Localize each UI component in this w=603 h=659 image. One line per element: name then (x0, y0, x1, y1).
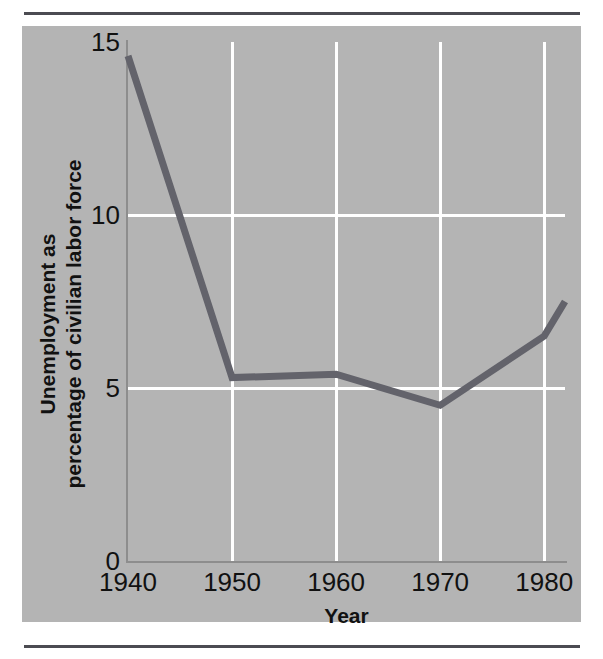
series-line (128, 56, 565, 405)
x-tick-label: 1980 (515, 569, 573, 595)
x-tick-label: 1960 (307, 569, 365, 595)
line-series (128, 42, 565, 561)
y-tick-label: 5 (106, 375, 120, 401)
bottom-rule (24, 645, 580, 648)
y-tick-label: 15 (91, 29, 120, 55)
x-tick-label: 1950 (203, 569, 261, 595)
chart-page: Unemployment as percentage of civilian l… (0, 0, 603, 659)
x-axis-title: Year (128, 604, 565, 628)
x-tick-label: 1970 (411, 569, 469, 595)
top-rule (24, 12, 580, 15)
plot-area: 051015 19401950196019701980 (128, 42, 565, 561)
x-tick-label: 1940 (99, 569, 157, 595)
y-axis-title-line2: percentage of civilian labor force (61, 109, 87, 539)
y-axis-title: Unemployment as percentage of civilian l… (35, 109, 86, 539)
x-axis-line (126, 561, 567, 563)
y-axis-title-line1: Unemployment as (35, 109, 61, 539)
figure-panel: Unemployment as percentage of civilian l… (22, 26, 581, 622)
y-tick-label: 10 (91, 202, 120, 228)
